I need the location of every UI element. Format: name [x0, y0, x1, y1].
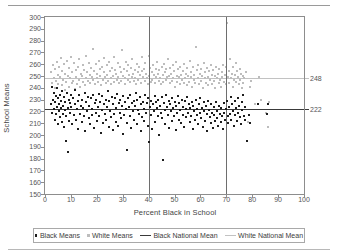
data-point: [168, 75, 170, 77]
data-point: [222, 128, 224, 130]
data-point: [173, 70, 175, 72]
data-point: [234, 100, 236, 102]
data-point: [134, 69, 136, 71]
data-point: [158, 80, 160, 82]
y-tick-mark: [41, 17, 44, 18]
data-point: [105, 99, 107, 101]
data-point: [94, 83, 96, 85]
y-tick-mark: [41, 194, 44, 195]
data-point: [217, 125, 219, 127]
data-point: [184, 77, 186, 79]
data-point: [102, 79, 104, 81]
data-point: [188, 81, 190, 83]
data-point: [117, 62, 119, 64]
data-point: [126, 149, 128, 151]
data-point: [155, 76, 157, 78]
data-point: [210, 64, 212, 66]
data-point: [108, 100, 110, 102]
data-point: [68, 86, 70, 88]
data-point: [78, 79, 80, 81]
data-point: [181, 79, 183, 81]
data-point: [106, 64, 108, 66]
data-point: [210, 122, 212, 124]
y-tick-label: 220: [17, 108, 41, 115]
data-point: [149, 106, 151, 108]
data-point: [123, 114, 125, 116]
data-point: [142, 101, 144, 103]
data-point: [95, 112, 97, 114]
data-point: [232, 66, 234, 68]
data-point: [57, 123, 59, 125]
data-point: [141, 70, 143, 72]
data-point: [169, 82, 171, 84]
data-point: [216, 110, 218, 112]
data-point: [84, 84, 86, 86]
data-point: [138, 66, 140, 68]
data-point: [170, 110, 172, 112]
data-point: [148, 141, 150, 143]
y-tick-mark: [41, 170, 44, 171]
data-point: [184, 100, 186, 102]
data-point: [202, 87, 204, 89]
reference-line-extension-222: [305, 109, 309, 110]
data-point: [79, 113, 81, 115]
data-point: [61, 90, 63, 92]
legend-line-icon: [140, 235, 151, 237]
data-point: [121, 105, 123, 107]
data-point: [57, 97, 59, 99]
y-axis-tick-labels: 1501601701801902002102202302402502602702…: [14, 16, 41, 195]
data-point: [62, 79, 64, 81]
data-point: [112, 75, 114, 77]
data-point: [112, 103, 114, 105]
data-point: [204, 71, 206, 73]
data-point: [113, 113, 115, 115]
data-point: [108, 126, 110, 128]
data-point: [74, 103, 76, 105]
data-point: [180, 122, 182, 124]
data-point: [104, 76, 106, 78]
legend-item: White National Mean: [225, 232, 303, 239]
data-point: [89, 82, 91, 84]
data-point: [125, 61, 127, 63]
data-point: [237, 112, 239, 114]
data-point: [70, 94, 72, 96]
data-point: [231, 103, 233, 105]
data-point: [67, 151, 69, 153]
data-point: [241, 101, 243, 103]
data-point: [99, 101, 101, 103]
data-point: [202, 126, 204, 128]
data-point: [65, 140, 67, 142]
data-point: [72, 97, 74, 99]
data-point: [191, 86, 193, 88]
data-point: [212, 127, 214, 129]
y-tick-label: 280: [17, 37, 41, 44]
data-point: [130, 127, 132, 129]
data-point: [198, 103, 200, 105]
data-point: [95, 63, 97, 65]
data-point: [78, 94, 80, 96]
data-point: [150, 114, 152, 116]
data-point: [171, 120, 173, 122]
reference-value-label-248: 248: [310, 75, 322, 82]
data-point: [151, 128, 153, 130]
data-point: [161, 66, 163, 68]
data-point: [60, 107, 62, 109]
data-point: [203, 101, 205, 103]
data-point: [135, 92, 137, 94]
data-point: [223, 102, 225, 104]
y-tick-label: 180: [17, 155, 41, 162]
data-point: [110, 77, 112, 79]
y-tick-label: 190: [17, 143, 41, 150]
data-point: [141, 56, 143, 58]
data-point: [111, 96, 113, 98]
data-point: [197, 123, 199, 125]
data-point: [70, 56, 72, 58]
data-point: [144, 80, 146, 82]
data-point: [260, 99, 262, 101]
data-point: [207, 84, 209, 86]
data-point: [238, 105, 240, 107]
data-point: [133, 119, 135, 121]
data-point: [61, 84, 63, 86]
data-point: [140, 82, 142, 84]
y-tick-mark: [41, 100, 44, 101]
